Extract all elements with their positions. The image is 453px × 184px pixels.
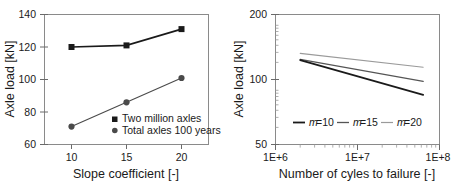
- y-tick-label-200: 200: [249, 8, 267, 20]
- legend-label-two-million-axles: Two million axles: [122, 112, 201, 124]
- x-tick-label-20: 20: [176, 151, 188, 163]
- y-tick-label-100: 100: [18, 73, 36, 85]
- legend-right: m =10 m =15 m =20: [293, 116, 422, 128]
- y-tick-label-60: 60: [24, 138, 36, 150]
- x-axis-title-right: Number of cyles to failure [-]: [279, 167, 435, 181]
- x-tick-label-1e7: 1E+7: [345, 151, 370, 163]
- y-axis-title-right: Axle load [kN]: [232, 40, 246, 117]
- x-tick-label-1e8: 1E+8: [426, 151, 451, 163]
- x-tick-label-1e6: 1E+6: [263, 151, 288, 163]
- legend-label-m10-val: =10: [316, 116, 334, 128]
- x-tick-label-15: 15: [121, 151, 133, 163]
- y-tick-label-50: 50: [255, 138, 267, 150]
- legend-label-total-axles-100-years: Total axles 100 years: [122, 124, 221, 136]
- legend-marker-square: [112, 117, 118, 123]
- figure-two-panel-chart: 60 80 100 120 140 10 15 20 Axle load [kN…: [0, 0, 453, 184]
- x-tick-label-10: 10: [66, 151, 78, 163]
- y-tick-label-100: 100: [249, 73, 267, 85]
- y-axis-title-left: Axle load [kN]: [3, 40, 17, 117]
- y-tick-label-80: 80: [24, 106, 36, 118]
- y-tick-label-140: 140: [18, 8, 36, 20]
- x-axis-title-left: Slope coefficient [-]: [73, 167, 179, 181]
- chart-panel-left: 60 80 100 120 140 10 15 20 Axle load [kN…: [0, 0, 226, 184]
- legend-label-m20-val: =20: [404, 116, 422, 128]
- chart-panel-right: 50 100 200 1E+6 1E+7 1E+8 Axle load [kN]…: [227, 0, 453, 184]
- y-tick-label-120: 120: [18, 41, 36, 53]
- legend-marker-circle: [112, 128, 118, 134]
- x-axis-ticks-left: [72, 145, 182, 150]
- legend-label-m15-val: =15: [360, 116, 378, 128]
